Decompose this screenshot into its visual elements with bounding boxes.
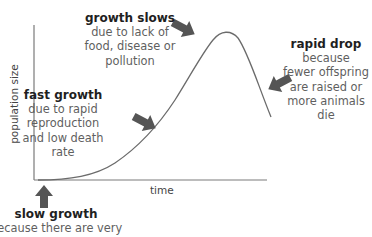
annotation-line: because: [282, 51, 370, 65]
annotation-line: more animals: [282, 94, 370, 108]
annotation-heading: slow growth: [0, 207, 122, 221]
annotation-growth-slows: growth slows due to lack of food, diseas…: [80, 11, 180, 68]
annotation-line: because there are very: [0, 221, 122, 235]
annotation-heading: rapid drop: [282, 37, 370, 51]
annotation-fast-growth: fast growth due to rapid reproduction an…: [20, 88, 106, 159]
annotation-line: fewer offspring: [282, 65, 370, 79]
annotation-line: due to lack of: [80, 25, 180, 39]
annotation-heading: fast growth: [20, 88, 106, 102]
y-axis-label: population size: [8, 64, 20, 144]
annotation-rapid-drop: rapid drop because fewer offspring are r…: [282, 37, 370, 122]
annotation-line: die: [282, 108, 370, 122]
annotation-slow-growth: slow growth because there are very: [0, 207, 122, 235]
annotation-heading: growth slows: [80, 11, 180, 25]
annotation-line: reproduction: [20, 116, 106, 130]
annotation-line: are raised or: [282, 80, 370, 94]
annotation-line: food, disease or: [80, 39, 180, 53]
annotation-line: and low death: [20, 131, 106, 145]
annotation-line: due to rapid: [20, 102, 106, 116]
arrow-fast-growth-icon: [129, 108, 160, 136]
x-axis-label: time: [150, 184, 174, 196]
annotation-line: pollution: [80, 54, 180, 68]
arrow-slow-growth-icon: [35, 185, 53, 208]
annotation-line: rate: [20, 145, 106, 159]
